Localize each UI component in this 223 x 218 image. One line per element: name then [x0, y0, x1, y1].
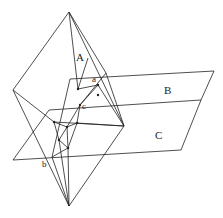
label-c: c [82, 102, 86, 111]
label-B: B [164, 85, 171, 96]
plane-B [49, 71, 214, 110]
geometry-drawing [0, 0, 223, 218]
label-b: b [42, 160, 47, 169]
label-A: A [76, 52, 84, 63]
diagram: A B C a b c [0, 0, 223, 218]
label-a: a [92, 75, 96, 84]
label-C: C [155, 130, 162, 141]
